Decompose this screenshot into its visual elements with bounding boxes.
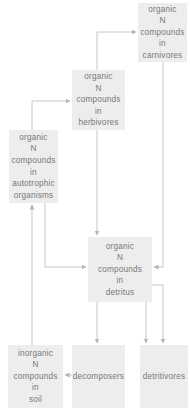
node-detritivores: detritivores (140, 345, 188, 408)
node-organic-n-detritus: organic N compounds in detritus (88, 237, 152, 302)
nitrogen-cycle-diagram: organic N compounds in carnivores organi… (0, 0, 190, 412)
node-decomposers: decomposers (72, 345, 125, 408)
node-inorganic-n-soil: inorganic N compounds in soil (8, 345, 63, 408)
node-organic-n-herbivores: organic N compounds in herbivores (72, 70, 125, 130)
edge-detritus-to-detritivores-2 (152, 285, 163, 343)
edge-herbivores-to-carnivores (97, 32, 136, 70)
edge-carnivores-to-detritus (154, 62, 163, 267)
node-organic-n-autotrophic-organisms: organic N compounds in autotrophic organ… (9, 130, 58, 203)
edge-autotrophic-to-herbivores (32, 101, 70, 130)
edge-autotrophic-to-detritus (45, 203, 86, 267)
node-organic-n-carnivores: organic N compounds in carnivores (138, 3, 187, 62)
